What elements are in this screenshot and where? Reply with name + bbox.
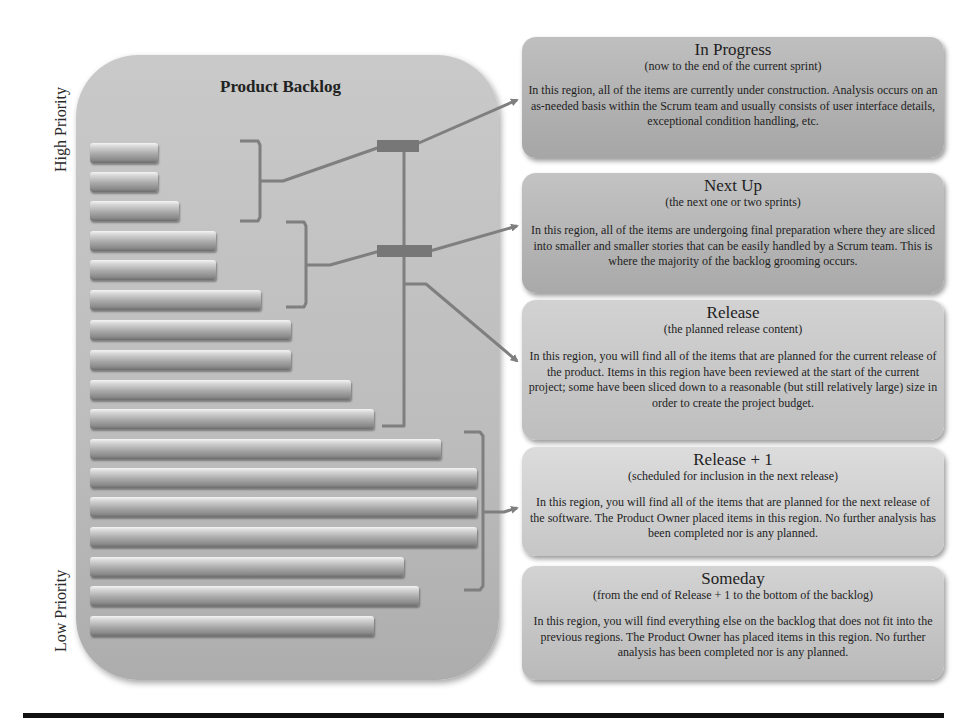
- junction-block: [377, 245, 432, 257]
- region-description: In this region, you will find all of the…: [528, 495, 938, 542]
- bracket-in-progress: [240, 141, 260, 221]
- region-description: In this region, you will find everything…: [528, 614, 938, 661]
- bracket-release-plus-1: [464, 432, 483, 590]
- region-box-release-plus-1: Release + 1 (scheduled for inclusion in …: [522, 447, 944, 556]
- region-box-release: Release (the planned release content) In…: [522, 300, 944, 440]
- region-title: Next Up: [528, 177, 938, 195]
- bracket-next-up: [286, 222, 306, 307]
- bottom-divider: [23, 713, 944, 718]
- arrow-release-plus-1: [483, 508, 517, 512]
- region-box-next-up: Next Up (the next one or two sprints) In…: [522, 173, 944, 293]
- region-description: In this region, all of the items are und…: [528, 223, 938, 270]
- region-description: In this region, all of the items are cur…: [528, 83, 938, 130]
- bracket-release: [382, 146, 404, 426]
- arrow-release: [404, 284, 517, 361]
- region-subtitle: (the next one or two sprints): [528, 195, 938, 209]
- region-title: Someday: [528, 570, 938, 588]
- region-box-in-progress: In Progress (now to the end of the curre…: [522, 37, 944, 158]
- region-subtitle: (scheduled for inclusion in the next rel…: [528, 469, 938, 483]
- region-subtitle: (the planned release content): [528, 322, 938, 336]
- junction-block: [377, 140, 419, 152]
- region-box-someday: Someday (from the end of Release + 1 to …: [522, 566, 944, 680]
- region-subtitle: (now to the end of the current sprint): [528, 59, 938, 73]
- region-title: In Progress: [528, 41, 938, 59]
- region-title: Release + 1: [528, 451, 938, 469]
- region-subtitle: (from the end of Release + 1 to the bott…: [528, 588, 938, 602]
- region-description: In this region, you will find all of the…: [528, 349, 938, 411]
- region-title: Release: [528, 304, 938, 322]
